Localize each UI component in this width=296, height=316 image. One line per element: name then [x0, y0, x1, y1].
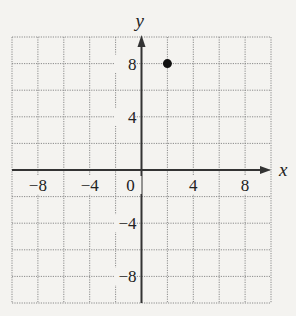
data-point: [163, 59, 172, 68]
x-tick-label: −8: [29, 176, 47, 195]
x-tick-label: 4: [189, 176, 198, 195]
coordinate-plane: xy−8−404884−4−8: [0, 0, 296, 316]
x-tick-label: 0: [126, 176, 135, 195]
y-axis-label: y: [134, 10, 145, 31]
y-tick-label: 4: [128, 108, 137, 127]
x-tick-label: −4: [81, 176, 100, 195]
y-tick-label: 8: [128, 55, 137, 74]
y-tick-label: −4: [118, 214, 137, 233]
x-axis-label: x: [278, 159, 288, 180]
x-tick-label: 8: [241, 176, 250, 195]
x-axis-arrow-icon: [260, 166, 271, 174]
y-tick-label: −8: [118, 267, 136, 286]
